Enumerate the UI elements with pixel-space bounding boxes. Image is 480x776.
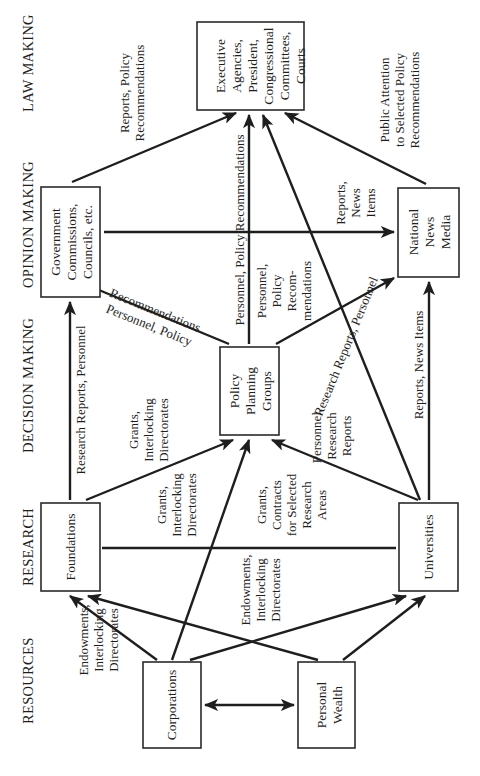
svg-text:Planning: Planning <box>243 367 258 415</box>
svg-text:Personal: Personal <box>314 682 329 729</box>
node-corporations: Corporations <box>143 662 201 748</box>
gov-to-executive-arrow <box>72 113 236 182</box>
label-personnel-policy-recom-mendations: Personnel, Policy Recom- mendations <box>254 261 314 321</box>
label-personnel-policy-recommendations-diag: Recommendations Personnel, Policy <box>102 285 203 350</box>
svg-text:President,: President, <box>245 39 260 93</box>
column-headers: RESOURCES RESEARCH DECISION MAKING OPINI… <box>20 14 36 724</box>
label-reports-news-items-short: Reports, News Items <box>333 181 378 225</box>
label-grants-lower: Grants, Interlocking Directorates <box>154 473 199 537</box>
svg-text:mendations: mendations <box>299 261 314 321</box>
node-universities: Universities <box>399 503 458 591</box>
svg-text:Media: Media <box>438 215 453 250</box>
svg-text:Areas: Areas <box>314 490 329 520</box>
svg-text:Research: Research <box>324 412 339 460</box>
svg-text:Agencies,: Agencies, <box>229 39 244 93</box>
label-personnel-policy-recommendations-vertical: Personnel, Policy Recommendations <box>232 134 247 325</box>
corp-to-policy-arrow <box>172 440 249 660</box>
svg-text:Reports,: Reports, <box>333 181 348 225</box>
label-research-reports-personnel-left: Research Reports, Personnel <box>73 325 88 474</box>
node-executive: Executive Agencies, President, Congressi… <box>197 22 308 110</box>
svg-text:to Selected Policy: to Selected Policy <box>392 53 407 147</box>
svg-text:Recom-: Recom- <box>284 270 299 311</box>
node-policy-planning-groups: Policy Planning Groups <box>220 347 279 435</box>
svg-text:Grants,: Grants, <box>154 486 169 524</box>
node-personal-wealth: Personal Wealth <box>298 662 355 748</box>
svg-text:Items: Items <box>363 189 378 218</box>
node-national-news-media: National News Media <box>398 188 459 277</box>
header-law-making: LAW MAKING <box>20 14 36 112</box>
svg-text:Interlocking: Interlocking <box>169 473 184 537</box>
svg-text:Endowments,: Endowments, <box>76 604 91 675</box>
svg-text:Research: Research <box>299 481 314 529</box>
svg-text:Policy: Policy <box>269 274 284 308</box>
svg-text:Interlocking: Interlocking <box>141 398 156 462</box>
svg-text:Grants,: Grants, <box>254 486 269 524</box>
svg-text:Wealth: Wealth <box>330 686 345 724</box>
svg-text:Government: Government <box>48 208 63 276</box>
svg-text:Recommendations: Recommendations <box>407 52 422 149</box>
header-decision-making: DECISION MAKING <box>20 317 36 453</box>
svg-text:Congressional: Congressional <box>261 27 276 104</box>
svg-text:Interlocking: Interlocking <box>91 608 106 672</box>
label-public-attention: Public Attention to Selected Policy Reco… <box>377 52 422 149</box>
svg-text:for Selected: for Selected <box>284 473 299 536</box>
svg-text:Public Attention: Public Attention <box>377 57 392 142</box>
label-grants-contracts: Grants, Contracts for Selected Research … <box>254 473 329 536</box>
svg-text:Endowments,: Endowments, <box>238 554 253 625</box>
svg-text:Directorates: Directorates <box>184 473 199 537</box>
node-foundations: Foundations <box>41 503 100 591</box>
svg-text:Executive: Executive <box>213 39 228 93</box>
svg-text:News: News <box>348 188 363 218</box>
label-reports-policy-recommendations: Reports, Policy Recommendations <box>117 45 147 142</box>
svg-text:Directorates: Directorates <box>156 398 171 462</box>
svg-text:National: National <box>406 209 421 256</box>
svg-text:News: News <box>422 217 437 248</box>
svg-text:Courts: Courts <box>293 48 308 84</box>
header-opinion-making: OPINION MAKING <box>20 161 36 288</box>
svg-text:Grants,: Grants, <box>126 411 141 449</box>
svg-text:Groups: Groups <box>259 371 274 411</box>
label-personnel-research-reports: Personnel, Research Reports <box>309 409 354 464</box>
label-endowments-right: Endowments, Interlocking Directorates <box>238 554 283 625</box>
svg-text:Recommendations: Recommendations <box>132 45 147 142</box>
svg-text:Reports, Policy: Reports, Policy <box>117 52 132 133</box>
svg-text:Interlocking: Interlocking <box>253 558 268 622</box>
label-research-reports-personnel-diag: Research Reports, Personnel <box>311 274 381 418</box>
corp-to-universities-arrow <box>190 596 406 660</box>
svg-text:Policy: Policy <box>227 374 242 409</box>
svg-text:Committees,: Committees, <box>277 32 292 101</box>
label-endowments-left: Endowments, Interlocking Directorates <box>76 604 121 675</box>
header-resources: RESOURCES <box>20 638 36 725</box>
label-reports-news-items-vertical: Reports, News Items <box>411 311 426 420</box>
svg-text:Personnel,: Personnel, <box>254 264 269 319</box>
svg-text:Directorates: Directorates <box>268 558 283 622</box>
wealth-to-universities-arrow <box>343 596 425 660</box>
svg-text:Directorates: Directorates <box>106 608 121 672</box>
node-gov-commissions: Government Commissions, Councils, etc. <box>41 187 100 297</box>
header-research: RESEARCH <box>20 508 36 586</box>
svg-text:Corporations: Corporations <box>164 670 179 741</box>
svg-text:Contracts: Contracts <box>269 480 284 530</box>
svg-text:Commissions,: Commissions, <box>64 204 79 281</box>
power-structure-diagram: RESOURCES RESEARCH DECISION MAKING OPINI… <box>0 0 480 776</box>
svg-text:Foundations: Foundations <box>63 514 78 581</box>
svg-text:Reports: Reports <box>339 416 354 456</box>
wealth-to-foundations-arrow <box>88 596 318 660</box>
svg-text:Councils, etc.: Councils, etc. <box>80 205 95 279</box>
svg-text:Universities: Universities <box>421 514 436 579</box>
label-grants-upper: Grants, Interlocking Directorates <box>126 398 171 462</box>
